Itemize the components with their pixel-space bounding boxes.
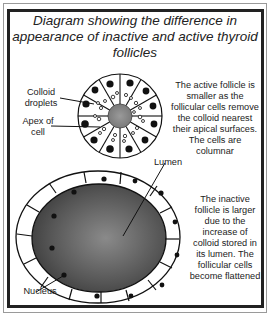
- active-follicle-description: The active follicle is smaller as the fo…: [170, 80, 260, 157]
- active-follicle: [78, 74, 162, 158]
- label-nucleus: Nucleus: [20, 286, 60, 297]
- inactive-follicle: [16, 171, 180, 303]
- label-colloid-droplets: Colloid droplets: [18, 87, 64, 109]
- label-apex-of-cell: Apex of cell: [20, 116, 56, 138]
- inactive-follicle-description: The inactive follicle is larger due to t…: [189, 194, 261, 282]
- label-lumen: Lumen: [150, 157, 186, 168]
